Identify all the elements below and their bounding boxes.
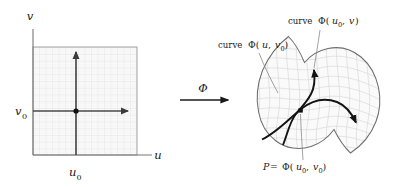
surface-panel: curve Φ( u , v 0 ) curve Φ( u 0 , v ) P	[218, 15, 390, 175]
label-point-p: P = Φ( u 0 , v 0 )	[262, 161, 326, 175]
tick-label-v0-sub: 0	[22, 112, 27, 121]
axis-label-u: u	[154, 148, 161, 162]
label-curve-u-suffix: )	[285, 39, 289, 50]
tick-label-u0-sub: 0	[77, 173, 82, 182]
label-curve-phi-u0-v: curve Φ( u 0 , v )	[288, 15, 359, 29]
tick-label-v0-base: v	[15, 104, 22, 118]
label-curve-v-suffix: )	[355, 15, 359, 26]
axis-label-v: v	[27, 9, 34, 23]
tick-label-u0-base: u	[69, 165, 76, 179]
label-curve-u-sep: ,	[268, 39, 271, 50]
domain-point-marker	[73, 108, 78, 113]
label-point-p-symbol: P	[262, 161, 270, 172]
label-curve-v-phi: Φ(	[318, 15, 329, 26]
map-arrow-group: Φ	[180, 81, 228, 100]
domain-square	[33, 47, 137, 155]
label-point-p-phi: Φ(	[282, 161, 293, 172]
map-arrow-label: Φ	[198, 81, 207, 95]
surface-point-marker	[298, 108, 302, 112]
label-curve-v-sep: ,	[342, 15, 345, 26]
label-point-p-equals: =	[270, 161, 278, 172]
label-curve-u-prefix: curve	[218, 40, 242, 50]
figure-canvas: v u v 0 u 0 Φ	[0, 0, 413, 187]
surface-patch-fill	[257, 37, 380, 154]
tick-label-v0: v 0	[15, 104, 27, 121]
label-point-p-sep: ,	[306, 161, 309, 172]
parametrization-figure: v u v 0 u 0 Φ	[0, 0, 413, 187]
label-curve-u-phi: Φ(	[248, 39, 259, 50]
label-point-p-suffix: )	[323, 161, 327, 172]
domain-panel: v u v 0 u 0	[15, 9, 162, 182]
tick-label-u0: u 0	[69, 165, 82, 182]
label-curve-v-prefix: curve	[288, 16, 312, 26]
